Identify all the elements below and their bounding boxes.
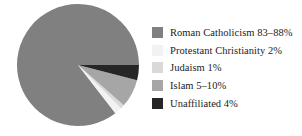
pie-chart-plot-area [0,0,151,136]
pie-slice-group [17,4,139,126]
chart-legend: Roman Catholicism 83–88% Protestant Chri… [152,24,302,112]
legend-swatch-icon-roman-catholicism [152,27,163,38]
legend-swatch-icon-islam [152,80,163,91]
legend-swatch-icon-judaism [152,62,163,73]
legend-label-islam: Islam 5–10% [170,80,226,91]
legend-swatch-icon-protestant-christianity [152,45,163,56]
pie-chart-figure: Roman Catholicism 83–88% Protestant Chri… [0,0,302,136]
legend-label-unaffiliated: Unaffiliated 4% [170,98,238,109]
legend-label-roman-catholicism: Roman Catholicism 83–88% [170,27,293,38]
legend-item-unaffiliated[interactable]: Unaffiliated 4% [152,94,302,112]
legend-label-protestant-christianity: Protestant Christianity 2% [170,45,282,56]
legend-label-judaism: Judaism 1% [170,62,222,73]
pie-chart-svg [0,0,151,136]
legend-item-roman-catholicism[interactable]: Roman Catholicism 83–88% [152,24,302,42]
legend-item-protestant-christianity[interactable]: Protestant Christianity 2% [152,42,302,60]
legend-swatch-icon-unaffiliated [152,98,163,109]
legend-item-judaism[interactable]: Judaism 1% [152,59,302,77]
legend-item-islam[interactable]: Islam 5–10% [152,77,302,95]
